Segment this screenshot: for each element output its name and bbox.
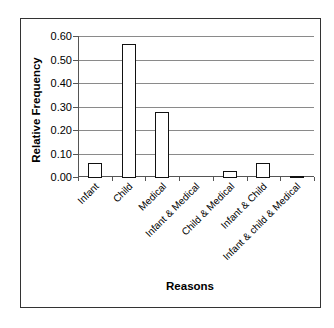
x-tick [179,177,180,181]
x-tick [213,177,214,181]
y-axis-title: Relative Frequency [30,57,42,162]
x-tick [145,177,146,181]
bar [122,44,136,178]
x-tick [247,177,248,181]
x-tick [112,177,113,181]
x-tick [314,177,315,181]
bar [155,112,169,178]
y-tick-label: 0.20 [44,124,72,136]
plot-area [78,36,314,177]
x-tick [78,177,79,181]
x-tick [280,177,281,181]
y-tick-label: 0.60 [44,30,72,42]
bar [256,163,270,178]
x-axis-title: Reasons [166,280,214,292]
bar [290,176,304,178]
y-tick-label: 0.50 [44,54,72,66]
y-tick-label: 0.00 [44,171,72,183]
bar [88,163,102,178]
y-tick-label: 0.40 [44,77,72,89]
bar [223,171,237,178]
y-tick-label: 0.10 [44,148,72,160]
y-tick-label: 0.30 [44,101,72,113]
